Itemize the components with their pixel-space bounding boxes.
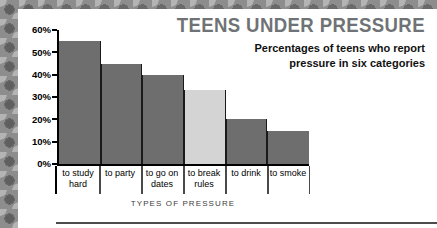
x-axis-label-line: dates bbox=[141, 179, 183, 190]
bar-slot bbox=[101, 30, 143, 164]
x-axis-title: TYPES OF PRESSURE bbox=[57, 199, 309, 208]
y-axis-tick-label: 10% bbox=[32, 137, 51, 147]
plot-area bbox=[57, 30, 309, 166]
y-axis-tick-label: 50% bbox=[32, 48, 51, 58]
x-axis-label-to-drink: to drink bbox=[225, 166, 267, 196]
bar-to-study-hard bbox=[59, 41, 101, 164]
x-axis-label-line: to smoke bbox=[267, 168, 309, 179]
bar-slot bbox=[226, 30, 268, 164]
x-axis-label-line: to break bbox=[183, 168, 225, 179]
bar-to-go-on-dates bbox=[142, 75, 184, 164]
x-axis-label-line: rules bbox=[183, 179, 225, 190]
x-axis-label-to-party: to party bbox=[99, 166, 141, 196]
bar-to-drink bbox=[226, 119, 268, 164]
bottom-divider bbox=[56, 222, 437, 224]
bar-series bbox=[59, 30, 309, 164]
x-axis-labels: to studyhardto partyto go ondatesto brea… bbox=[57, 166, 309, 196]
bar-slot bbox=[142, 30, 184, 164]
bar-to-party bbox=[101, 64, 143, 165]
x-axis-label-line: to go on bbox=[141, 168, 183, 179]
bar-slot bbox=[184, 30, 226, 164]
x-axis-label-to-break-rules: to breakrules bbox=[183, 166, 225, 196]
y-axis-tick-label: 30% bbox=[32, 92, 51, 102]
infographic-chart: TEENS UNDER PRESSURE Percentages of teen… bbox=[0, 0, 437, 228]
chart-card: TEENS UNDER PRESSURE Percentages of teen… bbox=[18, 9, 437, 228]
x-axis-label-line: to study bbox=[57, 168, 99, 179]
bar-slot bbox=[267, 30, 309, 164]
x-axis-label-line: hard bbox=[57, 179, 99, 190]
bar-to-break-rules bbox=[184, 90, 226, 164]
x-axis-label-to-study-hard: to studyhard bbox=[57, 166, 99, 196]
x-axis-label-line: to drink bbox=[225, 168, 267, 179]
x-axis-label-to-go-on-dates: to go ondates bbox=[141, 166, 183, 196]
y-axis: 60%50%40%30%20%10%0% bbox=[18, 30, 57, 164]
y-axis-tick-label: 60% bbox=[32, 25, 51, 35]
y-axis-tick-label: 0% bbox=[37, 159, 51, 169]
bar-slot bbox=[59, 30, 101, 164]
y-axis-tick-label: 20% bbox=[32, 115, 51, 125]
x-axis-label-to-smoke: to smoke bbox=[267, 166, 309, 196]
y-axis-tick-label: 40% bbox=[32, 70, 51, 80]
x-axis-label-line: to party bbox=[99, 168, 141, 179]
bar-to-smoke bbox=[267, 131, 309, 165]
